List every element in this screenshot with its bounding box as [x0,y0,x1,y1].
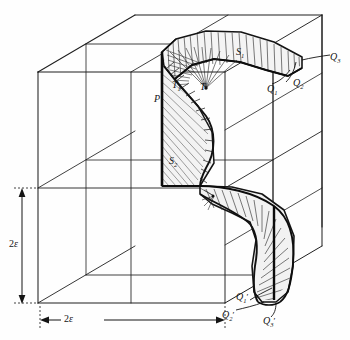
label-point-t: T [200,82,206,92]
label-q2: Q2 [293,78,303,91]
label-q3: Q3 [330,52,340,65]
surface-s1 [162,31,302,96]
figure-container: P T1 T S1 S2 Q1 Q2 Q3 Q1′ Q2′ Q3′ 2ε 2ε [0,0,350,340]
label-surface-s2: S2 [169,156,177,169]
label-q1-prime: Q1′ [236,292,248,305]
dimension-label-horizontal: 2ε [64,314,73,324]
label-q2-prime: Q2′ [222,310,234,323]
label-q1: Q1 [267,84,277,97]
label-surface-s1: S1 [236,47,244,60]
surface-lower-hook [200,186,294,305]
diagram-svg [0,0,350,340]
label-point-p: P [154,94,160,104]
dimension-label-vertical: 2ε [9,239,18,249]
label-q3-prime: Q3′ [263,316,275,329]
label-point-t1: T1 [172,80,181,93]
